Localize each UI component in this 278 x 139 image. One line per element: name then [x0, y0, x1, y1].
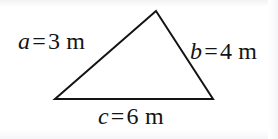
- side-a-value: 3: [48, 28, 60, 54]
- side-a-symbol: a: [18, 28, 30, 54]
- side-c-equals: =: [111, 103, 125, 129]
- side-b-value: 4: [220, 38, 232, 64]
- side-c-symbol: c: [98, 103, 109, 129]
- side-b-equals: =: [204, 38, 218, 64]
- side-label-b: b=4 m: [190, 39, 257, 63]
- side-label-a: a=3 m: [18, 29, 85, 53]
- side-a-unit: m: [66, 28, 85, 54]
- side-c-unit: m: [145, 103, 164, 129]
- side-a-equals: =: [32, 28, 46, 54]
- side-b-unit: m: [238, 38, 257, 64]
- side-label-c: c=6 m: [98, 104, 164, 128]
- side-c-value: 6: [127, 103, 139, 129]
- triangle-figure: a=3 m b=4 m c=6 m: [0, 0, 278, 139]
- side-b-symbol: b: [190, 38, 202, 64]
